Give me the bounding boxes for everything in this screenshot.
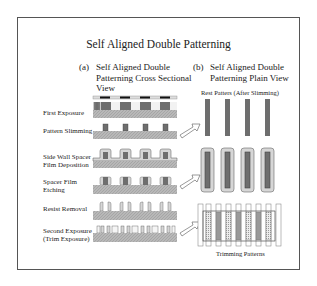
cross-section-resist-removal: [100, 202, 171, 211]
cross-section-spacer-etching: [93, 177, 177, 194]
cross-section-spacer-deposition: [93, 149, 177, 168]
cross-section-second-exposure: [97, 226, 175, 233]
plain-view-spacer: [201, 148, 274, 192]
arrow-icon: [180, 124, 200, 236]
cross-section-first-exposure: [93, 96, 177, 118]
cross-section-pattern-slimming: [93, 124, 177, 139]
substrate: [93, 211, 177, 220]
plain-view-rest-patterns: [205, 99, 270, 136]
process-illustration: [0, 0, 317, 286]
plain-view-trimming: [198, 204, 281, 246]
